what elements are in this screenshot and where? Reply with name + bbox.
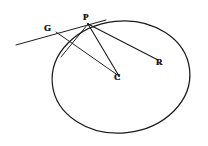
circle-group [47,14,196,140]
label-g: G [44,24,51,33]
label-c: C [114,73,121,82]
segment-g-to-c [56,32,119,76]
label-r: R [156,58,163,67]
line-group [16,20,158,76]
main-circle [47,14,196,140]
geometry-figure: P G C R [0,0,208,146]
geometry-canvas [0,0,208,146]
point-p-marker [87,23,89,25]
label-p: P [83,13,89,22]
